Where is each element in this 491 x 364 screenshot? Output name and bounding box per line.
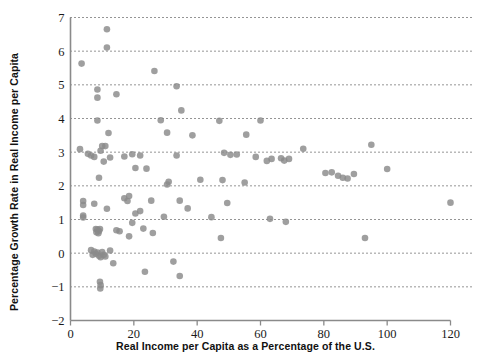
data-point — [216, 118, 223, 125]
data-point — [91, 154, 98, 161]
tick-labels-group: 020406080100120−2−101234567 — [51, 11, 460, 341]
data-point — [227, 152, 234, 159]
data-point — [137, 208, 144, 215]
data-point — [94, 86, 101, 93]
data-point — [107, 154, 114, 161]
data-point — [129, 220, 136, 227]
scatter-plot-figure: 020406080100120−2−101234567 Real Income … — [0, 0, 491, 364]
data-point — [113, 91, 120, 98]
y-tick-label-0: 0 — [58, 247, 64, 261]
x-tick-label-100: 100 — [378, 327, 397, 341]
data-point — [126, 233, 133, 240]
data-point — [197, 176, 204, 183]
x-tick-label-120: 120 — [441, 327, 460, 341]
data-point — [151, 68, 158, 75]
data-point — [384, 166, 391, 173]
data-point — [283, 219, 290, 226]
data-point — [243, 131, 250, 138]
data-point — [142, 268, 149, 275]
data-point — [102, 253, 109, 260]
y-tick-label-3: 3 — [58, 146, 64, 160]
data-point — [80, 214, 87, 221]
data-point — [221, 150, 228, 157]
data-point — [257, 117, 264, 124]
data-point — [77, 146, 84, 153]
axis-lines-group — [71, 18, 451, 321]
y-tick-label-6: 6 — [58, 45, 64, 59]
data-point — [184, 205, 191, 212]
data-point — [104, 205, 111, 212]
x-tick-label-60: 60 — [254, 327, 267, 341]
data-point — [281, 157, 288, 164]
data-point — [78, 60, 85, 67]
data-point — [178, 107, 185, 114]
data-point — [148, 197, 155, 204]
y-tick-label-2: 2 — [58, 179, 64, 193]
data-point — [170, 258, 177, 265]
data-point — [97, 148, 104, 155]
data-point — [140, 225, 147, 232]
data-point — [219, 177, 226, 184]
data-point — [105, 130, 112, 137]
data-point — [91, 200, 98, 207]
data-point — [110, 260, 117, 267]
y-tick-label-5: 5 — [58, 78, 64, 92]
data-point — [164, 181, 171, 188]
data-points-group — [77, 26, 454, 292]
data-point — [107, 247, 114, 254]
data-point — [322, 170, 329, 177]
y-tick-label--1: −1 — [51, 280, 64, 294]
data-point — [300, 146, 307, 153]
data-point — [328, 169, 335, 176]
data-point — [89, 252, 96, 259]
data-point — [80, 202, 87, 209]
data-point — [252, 154, 259, 161]
data-point — [368, 141, 375, 148]
data-point — [161, 214, 168, 221]
data-point — [264, 158, 271, 165]
data-point — [241, 179, 248, 186]
data-point — [132, 165, 139, 172]
data-point — [124, 198, 131, 205]
x-tick-label-0: 0 — [67, 327, 73, 341]
data-point — [157, 117, 164, 124]
y-tick-label--2: −2 — [51, 314, 64, 328]
data-point — [340, 174, 347, 181]
data-point — [143, 165, 150, 172]
data-point — [447, 199, 454, 206]
x-tick-label-20: 20 — [128, 327, 141, 341]
data-point — [351, 171, 358, 178]
plot-canvas: 020406080100120−2−101234567 — [0, 0, 491, 364]
data-point — [208, 214, 215, 221]
data-point — [176, 273, 183, 280]
data-point — [100, 158, 107, 165]
data-point — [362, 235, 369, 242]
x-tick-label-80: 80 — [318, 327, 331, 341]
data-point — [224, 200, 231, 207]
y-tick-label-1: 1 — [58, 213, 64, 227]
data-point — [116, 228, 123, 235]
data-point — [233, 151, 240, 158]
data-point — [97, 285, 104, 292]
data-point — [121, 153, 128, 160]
x-axis-title: Real Income per Capita as a Percentage o… — [0, 340, 491, 352]
data-point — [104, 44, 111, 51]
data-point — [218, 235, 225, 242]
data-point — [173, 152, 180, 159]
data-point — [164, 129, 171, 136]
data-point — [96, 174, 103, 181]
data-point — [267, 216, 274, 223]
data-point — [94, 117, 101, 124]
data-point — [137, 152, 144, 159]
data-point — [97, 226, 104, 233]
data-point — [150, 230, 157, 237]
data-point — [176, 197, 183, 204]
data-point — [189, 132, 196, 139]
y-tick-label-7: 7 — [58, 11, 64, 25]
x-tick-label-40: 40 — [191, 327, 204, 341]
y-axis-title: Percentage Growth Rate in Real Income pe… — [0, 0, 28, 364]
data-point — [173, 83, 180, 90]
data-point — [104, 26, 111, 33]
y-tick-label-4: 4 — [58, 112, 65, 126]
data-point — [94, 94, 101, 101]
